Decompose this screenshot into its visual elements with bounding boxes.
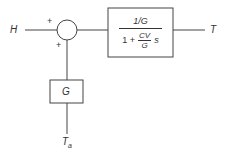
tf-inner-fraction: CV G — [138, 31, 151, 50]
output-t-label: T — [210, 25, 216, 35]
ta-subscript: a — [68, 142, 72, 149]
plus-sign-top: + — [47, 17, 52, 26]
tf-denominator: 1 + CV G s — [122, 31, 158, 50]
ta-label: Ta — [62, 137, 72, 151]
plus-sign-bottom: + — [56, 41, 61, 50]
tf-inner-denominator: G — [142, 41, 148, 50]
tf-den-suffix: s — [154, 35, 159, 45]
tf-inner-numerator: CV — [138, 31, 151, 41]
summing-junction — [57, 20, 77, 40]
tf-den-prefix: 1 + — [122, 35, 135, 45]
forward-transfer-function: 1/G 1 + CV G s — [108, 8, 173, 57]
tf-numerator: 1/G — [119, 16, 162, 29]
g-block-label: G — [62, 87, 70, 97]
input-h-label: H — [10, 25, 17, 35]
